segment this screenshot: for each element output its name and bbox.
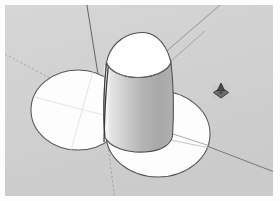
screenshot-root bbox=[0, 0, 280, 201]
modeling-viewport[interactable] bbox=[5, 5, 273, 196]
scene-canvas[interactable] bbox=[5, 5, 273, 196]
cylinder[interactable] bbox=[103, 33, 173, 153]
